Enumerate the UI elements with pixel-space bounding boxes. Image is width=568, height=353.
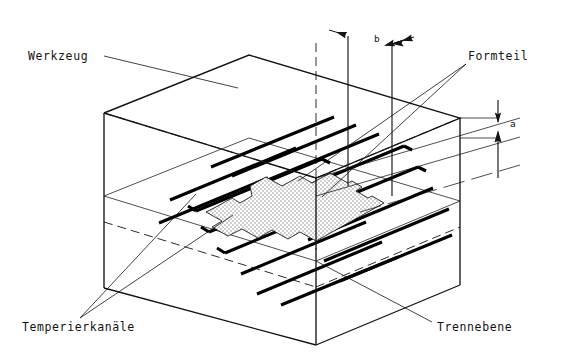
label-trennebene: Trennebene	[437, 320, 512, 334]
figure-canvas: b a Werkzeug Formteil Temperierkanäle Tr	[0, 0, 568, 353]
label-werkzeug: Werkzeug	[28, 49, 88, 63]
technical-drawing: b a Werkzeug Formteil Temperierkanäle Tr	[0, 0, 568, 353]
label-temperierkanaele: Temperierkanäle	[22, 320, 135, 334]
label-formteil: Formteil	[468, 49, 528, 63]
dimension-b-label: b	[374, 33, 380, 44]
